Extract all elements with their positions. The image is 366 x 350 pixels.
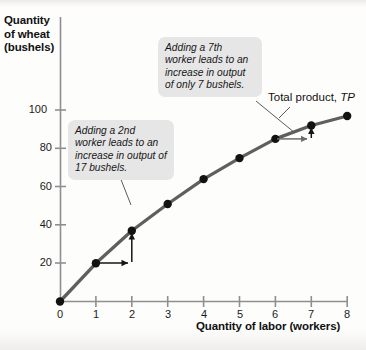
x-tick-label-5: 5 xyxy=(231,308,249,320)
callout-leader-line-7th-worker xyxy=(256,101,295,133)
x-tick-label-3: 3 xyxy=(159,308,177,320)
y-tick-label-40: 40 xyxy=(22,218,52,230)
y-axis-title-line-1: Quantity xyxy=(4,14,70,28)
y-axis-title: Quantity of wheat (bushels) xyxy=(4,14,70,55)
x-tick-label-1: 1 xyxy=(87,308,105,320)
total-product-label-symbol: TP xyxy=(340,91,355,103)
marginal-product-step-2nd-worker xyxy=(97,233,135,266)
x-tick-label-7: 7 xyxy=(302,308,320,320)
y-tick-label-100: 100 xyxy=(17,103,47,115)
y-tick-label-60: 60 xyxy=(22,180,52,192)
y-tick-label-20: 20 xyxy=(22,256,52,268)
y-axis-title-line-2: of wheat xyxy=(4,28,70,42)
total-product-label-prefix: Total product, xyxy=(268,91,340,103)
x-tick-label-2: 2 xyxy=(123,308,141,320)
x-tick-label-0: 0 xyxy=(51,308,69,320)
total-product-chart-figure: Quantity of wheat (bushels) Quantity of … xyxy=(0,0,366,350)
total-product-curve-label: Total product, TP xyxy=(268,91,355,103)
annotation-callout-7th-worker: Adding a 7th worker leads to an increase… xyxy=(158,37,262,97)
x-axis-title: Quantity of labor (workers) xyxy=(196,320,362,334)
y-axis-title-line-3: (bushels) xyxy=(4,41,70,55)
x-tick-label-6: 6 xyxy=(266,308,284,320)
x-tick-label-4: 4 xyxy=(195,308,213,320)
x-tick-label-8: 8 xyxy=(338,308,356,320)
y-tick-label-80: 80 xyxy=(22,141,52,153)
annotation-callout-2nd-worker: Adding a 2nd worker leads to an increase… xyxy=(68,120,174,180)
curve-label-leader-line xyxy=(279,107,290,118)
